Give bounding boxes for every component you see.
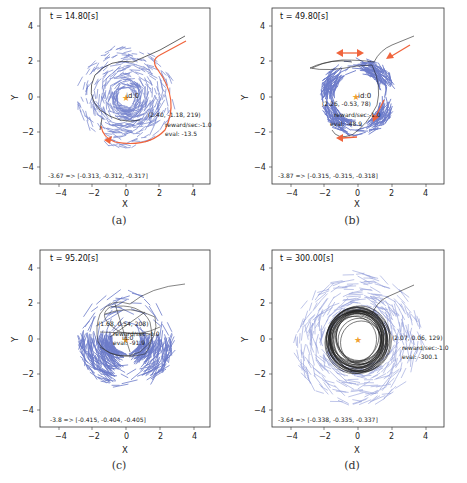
ytick-d-4: −4	[254, 406, 266, 415]
xtick-a-3: 2	[157, 189, 162, 198]
reward-label-a: reward/sec:-1.0	[165, 121, 212, 128]
value-line-a: -3.67 => [-0.313, -0.312, -0.317]	[48, 172, 148, 179]
xtick-d-3: 2	[389, 432, 394, 441]
sublabel-b: (b)	[332, 214, 372, 227]
ytick-d-2: 0	[260, 335, 265, 344]
xtick-d-2: 0	[355, 432, 360, 441]
sublabel-d: (d)	[332, 459, 372, 472]
ytick-a-1: 2	[28, 57, 33, 66]
time-label-b: t = 49.80[s]	[280, 12, 328, 21]
plot-c: ★ t = 95.20[s] id:0 (1.68, 0.54, 208) re…	[0, 242, 235, 477]
plot-d: ★ t = 300.00[s] (2.07, 0.06, 129) reward…	[232, 242, 467, 477]
xtick-c-3: 2	[158, 432, 163, 441]
y-ticks-b	[269, 26, 272, 167]
time-label-a: t = 14.80[s]	[50, 12, 98, 21]
xtick-c-0: −4	[55, 432, 67, 441]
ytick-a-3: −2	[22, 128, 34, 137]
value-line-b: -3.87 => [-0.315, -0.315, -0.318]	[278, 172, 378, 179]
goal-star-d: ★	[354, 335, 362, 345]
ytick-c-1: 2	[28, 299, 33, 308]
xtick-c-4: 4	[192, 432, 197, 441]
xtick-d-1: −2	[319, 432, 331, 441]
xtick-a-1: −2	[88, 189, 100, 198]
value-line-d: -3.64 => [-0.338, -0.335, -0.337]	[278, 416, 378, 423]
eval-label-c: eval: -91.9	[113, 339, 145, 346]
sublabel-a: (a)	[99, 214, 139, 227]
xlabel-d: X	[354, 445, 360, 455]
ytick-a-0: 4	[28, 22, 33, 31]
state-label-c: (1.68, 0.54, 208)	[98, 320, 148, 327]
x-ticks-d	[291, 427, 426, 430]
xtick-b-2: 0	[355, 189, 360, 198]
ytick-d-3: −2	[254, 370, 266, 379]
xtick-d-4: 4	[423, 432, 428, 441]
panel-c: ★ t = 95.20[s] id:0 (1.68, 0.54, 208) re…	[0, 242, 235, 477]
panel-b: ★ t = 49.80[s] id:0 (2.26, -0.53, 78) re…	[232, 0, 467, 235]
ytick-b-2: 0	[260, 93, 265, 102]
xlabel-b: X	[354, 199, 360, 209]
xtick-b-3: 2	[389, 189, 394, 198]
ytick-d-1: 2	[260, 299, 265, 308]
time-label-c: t = 95.20[s]	[50, 254, 98, 263]
ylabel-a: Y	[10, 94, 20, 101]
xtick-a-4: 4	[191, 189, 196, 198]
xtick-a-0: −4	[55, 189, 67, 198]
eval-label-b: eval: -48.9	[330, 120, 362, 127]
xtick-b-4: 4	[423, 189, 428, 198]
plot-a: ★ t = 14.80[s] id:0 (2.40, -1.18, 219) r…	[0, 0, 235, 235]
y-ticks-c	[37, 268, 40, 410]
panel-a: ★ t = 14.80[s] id:0 (2.40, -1.18, 219) r…	[0, 0, 235, 235]
xtick-c-2: 0	[124, 432, 129, 441]
xlabel-a: X	[122, 199, 128, 209]
reward-label-d: reward/sec:-1.0	[402, 344, 449, 351]
panel-d: ★ t = 300.00[s] (2.07, 0.06, 129) reward…	[232, 242, 467, 477]
ytick-c-0: 4	[28, 264, 33, 273]
figure-caption	[130, 474, 350, 483]
ytick-b-3: −2	[254, 128, 266, 137]
arrow-head-a	[104, 136, 112, 144]
x-ticks-a	[59, 184, 193, 187]
xtick-c-1: −2	[88, 432, 100, 441]
y-ticks-d	[269, 268, 272, 410]
agent-label-b: id:0	[358, 92, 371, 100]
plot-b: ★ t = 49.80[s] id:0 (2.26, -0.53, 78) re…	[232, 0, 467, 235]
ytick-b-4: −4	[254, 163, 266, 172]
ylabel-d: Y	[240, 336, 250, 343]
ytick-a-2: 0	[28, 93, 33, 102]
ytick-c-4: −4	[22, 406, 34, 415]
ytick-b-1: 2	[260, 57, 265, 66]
x-ticks-b	[291, 184, 426, 187]
eval-label-a: eval: -13.5	[165, 130, 197, 137]
sublabel-c: (c)	[99, 459, 139, 472]
agent-label-a: id:0	[126, 92, 139, 100]
value-line-c: -3.8 => [-0.415, -0.404, -0.405]	[50, 416, 146, 423]
ytick-b-0: 4	[260, 22, 265, 31]
ytick-c-3: −2	[22, 370, 34, 379]
state-label-d: (2.07, 0.06, 129)	[392, 334, 442, 341]
y-ticks-a	[37, 26, 40, 167]
reward-label-c: reward/sec:-1.0	[113, 330, 160, 337]
xtick-d-0: −4	[286, 432, 298, 441]
state-label-a: (2.40, -1.18, 219)	[148, 111, 201, 118]
x-ticks-c	[59, 427, 194, 430]
ylabel-b: Y	[240, 94, 250, 101]
xtick-a-2: 0	[124, 189, 129, 198]
time-label-d: t = 300.00[s]	[280, 254, 333, 263]
state-label-b: (2.26, -0.53, 78)	[322, 100, 371, 107]
ylabel-c: Y	[10, 336, 20, 343]
ytick-a-4: −4	[22, 163, 34, 172]
reward-label-b: reward/sec:-1.0	[334, 111, 381, 118]
ytick-d-0: 4	[260, 264, 265, 273]
xtick-b-1: −2	[319, 189, 331, 198]
xtick-b-0: −4	[286, 189, 298, 198]
ytick-c-2: 0	[28, 335, 33, 344]
xlabel-c: X	[122, 445, 128, 455]
eval-label-d: eval: -300.1	[402, 353, 438, 360]
